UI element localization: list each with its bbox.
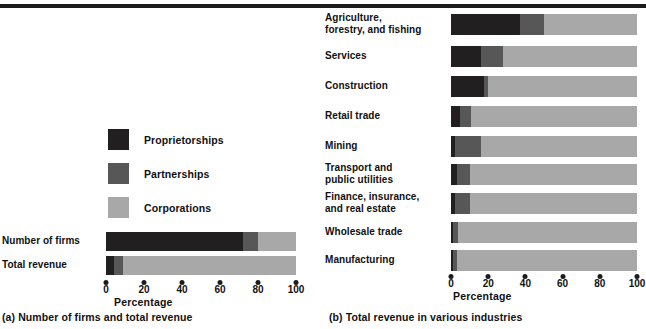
- stacked-bar: [106, 256, 296, 275]
- stacked-bar: [451, 106, 637, 127]
- bar-segment-corporations: [258, 232, 296, 251]
- axis-tick-label: 80: [594, 278, 605, 289]
- axis-tick-label: 20: [483, 278, 494, 289]
- legend-label: Corporations: [144, 202, 211, 214]
- legend-label: Partnerships: [144, 168, 209, 180]
- bar-segment-corporations: [457, 250, 637, 271]
- stacked-bar: [451, 14, 637, 35]
- bar-segment-corporations: [470, 193, 637, 214]
- bar-segment-proprietorships: [451, 106, 460, 127]
- bar-segment-partnerships: [243, 232, 258, 251]
- axis-tick-label: 60: [557, 278, 568, 289]
- axis-tick-label: 100: [288, 284, 305, 295]
- bar-category-label: Transport and public utilities: [325, 162, 447, 185]
- bar-segment-partnerships: [481, 46, 503, 67]
- bar-segment-corporations: [471, 106, 637, 127]
- stacked-bar: [451, 250, 637, 271]
- bar-segment-proprietorships: [451, 76, 484, 97]
- panel-a-caption: (a) Number of firms and total revenue: [2, 311, 192, 323]
- stacked-bar: [451, 76, 637, 97]
- axis-tick-label: 40: [176, 284, 187, 295]
- bar-segment-partnerships: [460, 106, 471, 127]
- bar-category-label: Number of firms: [2, 235, 100, 247]
- bar-category-label: Construction: [325, 80, 447, 92]
- axis-tick-label: 100: [629, 278, 646, 289]
- bar-category-label: Finance, insurance, and real estate: [325, 191, 447, 214]
- legend-swatch-corporations: [108, 197, 129, 218]
- bar-segment-corporations: [503, 46, 637, 67]
- stacked-bar: [451, 222, 637, 243]
- axis-tick-label: 80: [252, 284, 263, 295]
- bar-category-label: Wholesale trade: [325, 226, 447, 238]
- bar-segment-proprietorships: [451, 14, 520, 35]
- stacked-bar: [451, 136, 637, 157]
- bar-category-label: Retail trade: [325, 110, 447, 122]
- stacked-bar: [451, 193, 637, 214]
- bar-category-label: Mining: [325, 140, 447, 152]
- bar-category-label: Agriculture, forestry, and fishing: [325, 12, 447, 35]
- chart-panel-a: ProprietorshipsPartnershipsCorporations …: [0, 0, 323, 329]
- axis-tick-label: 60: [214, 284, 225, 295]
- bar-segment-corporations: [123, 256, 296, 275]
- bar-category-label: Total revenue: [2, 259, 100, 271]
- bar-segment-corporations: [470, 164, 637, 185]
- legend-label: Proprietorships: [144, 134, 224, 146]
- bar-segment-partnerships: [114, 256, 124, 275]
- bar-segment-corporations: [544, 14, 637, 35]
- bar-segment-partnerships: [455, 136, 481, 157]
- panel-b-caption: (b) Total revenue in various industries: [329, 311, 522, 323]
- bar-category-label: Manufacturing: [325, 254, 447, 266]
- legend-swatch-partnerships: [108, 163, 129, 184]
- stacked-bar: [106, 232, 296, 251]
- legend-item: Corporations: [108, 195, 224, 220]
- bar-segment-partnerships: [455, 193, 470, 214]
- stacked-bar: [451, 164, 637, 185]
- bar-segment-corporations: [458, 222, 637, 243]
- axis-tick-label: 0: [448, 278, 454, 289]
- legend-item: Proprietorships: [108, 127, 224, 152]
- bar-segment-proprietorships: [106, 232, 243, 251]
- axis-tick-label: 40: [520, 278, 531, 289]
- bar-segment-partnerships: [520, 14, 544, 35]
- panel-a-axis-title: Percentage: [114, 296, 173, 308]
- axis-tick-label: 20: [138, 284, 149, 295]
- legend-swatch-proprietorships: [108, 129, 129, 150]
- bar-segment-corporations: [481, 136, 637, 157]
- bar-segment-proprietorships: [451, 46, 481, 67]
- legend-item: Partnerships: [108, 161, 224, 186]
- chart-panel-b: Agriculture, forestry, and fishingServic…: [323, 0, 646, 329]
- bar-segment-proprietorships: [106, 256, 114, 275]
- bar-segment-partnerships: [457, 164, 470, 185]
- stacked-bar: [451, 46, 637, 67]
- axis-tick-label: 0: [103, 284, 109, 295]
- bar-segment-corporations: [488, 76, 637, 97]
- legend: ProprietorshipsPartnershipsCorporations: [108, 127, 224, 229]
- panel-b-axis-title: Percentage: [453, 290, 512, 302]
- bar-category-label: Services: [325, 50, 447, 62]
